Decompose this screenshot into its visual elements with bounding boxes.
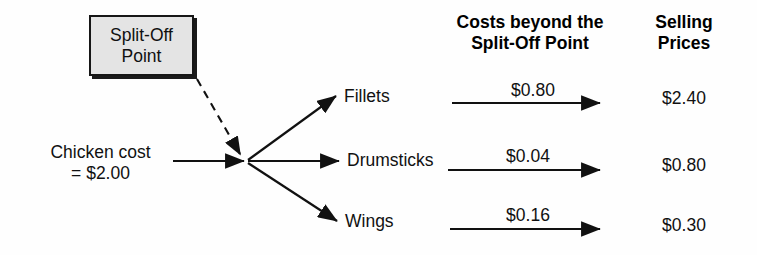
selling-price-drumsticks: $0.80 <box>632 155 736 176</box>
selling-price-fillets: $2.40 <box>632 88 736 109</box>
split-off-point-box: Split-Off Point <box>89 15 194 76</box>
split-off-point-label: Split-Off Point <box>110 25 173 67</box>
cost-value-drumsticks: $0.04 <box>483 146 573 167</box>
cost-value-fillets: $0.80 <box>488 80 578 101</box>
split-off-point-diagram: Split-Off Point Chicken cost = $2.00 Cos… <box>0 0 757 255</box>
product-label-drumsticks: Drumsticks <box>347 150 434 171</box>
header-costs-beyond-split-off: Costs beyond the Split-Off Point <box>432 12 628 54</box>
cost-value-wings: $0.16 <box>483 205 573 226</box>
callout-pointer-dashed-arrow <box>197 79 240 154</box>
selling-price-wings: $0.30 <box>632 215 736 236</box>
chicken-cost-label: Chicken cost = $2.00 <box>33 142 168 183</box>
branch-arrow-fillets <box>248 96 336 160</box>
branch-arrow-wings <box>248 163 337 221</box>
product-label-wings: Wings <box>345 211 394 232</box>
header-selling-prices: Selling Prices <box>632 12 736 54</box>
product-label-fillets: Fillets <box>344 86 390 107</box>
